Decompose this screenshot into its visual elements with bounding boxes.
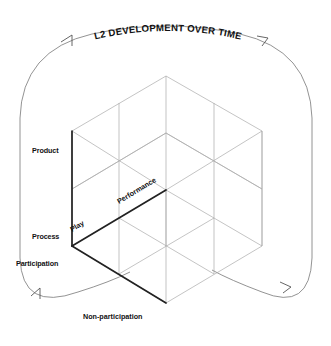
axis-label-non-participation: Non-participation [83,312,143,321]
axis-label-participation: Participation [16,259,58,268]
axis-label-product: Product [32,146,59,155]
diagram-canvas: L2 DEVELOPMENT OVER TIME [0,0,331,346]
axis-label-process: Process [32,232,59,241]
l2-development-cube-diagram: L2 DEVELOPMENT OVER TIME [0,0,331,346]
